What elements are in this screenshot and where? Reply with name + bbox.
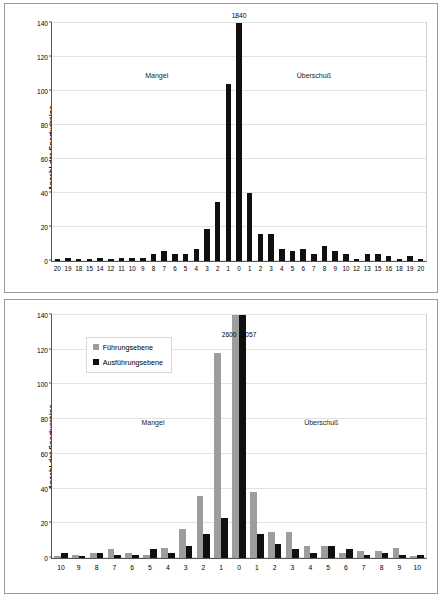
bar[interactable]	[215, 202, 221, 262]
bar[interactable]	[197, 496, 204, 558]
bar[interactable]	[268, 234, 274, 261]
bar[interactable]	[168, 553, 175, 558]
bar[interactable]	[125, 553, 132, 558]
bar-slot[interactable]: 3	[202, 23, 213, 261]
bar-slot[interactable]: 6	[298, 23, 309, 261]
bar-slot[interactable]: 15	[373, 23, 384, 261]
bar[interactable]	[290, 251, 296, 261]
bar-slot[interactable]: 12	[105, 23, 116, 261]
bar[interactable]	[61, 553, 68, 558]
bar[interactable]	[221, 518, 228, 558]
bar[interactable]	[275, 544, 282, 558]
bar-slot[interactable]: 1	[248, 315, 266, 558]
bar[interactable]	[346, 549, 353, 558]
bar[interactable]	[72, 555, 79, 558]
bar[interactable]	[150, 549, 157, 558]
bar-slot[interactable]: 026002057	[230, 315, 248, 558]
bar[interactable]	[375, 551, 382, 558]
bar-slot[interactable]: 7	[309, 23, 320, 261]
bar-slot[interactable]: 01840	[234, 23, 245, 261]
bar[interactable]	[407, 256, 413, 261]
bar[interactable]	[268, 532, 275, 558]
bar[interactable]	[292, 549, 299, 558]
bar[interactable]	[304, 546, 311, 558]
bar[interactable]	[321, 546, 328, 558]
bar[interactable]	[161, 548, 168, 558]
bar[interactable]	[279, 249, 285, 261]
bar[interactable]	[172, 254, 178, 261]
bar[interactable]	[179, 529, 186, 559]
bar-slot[interactable]: 19	[405, 23, 416, 261]
bar-slot[interactable]: 18	[73, 23, 84, 261]
bar-slot[interactable]: 10	[52, 315, 70, 558]
bar[interactable]	[339, 553, 346, 558]
bar-slot[interactable]: 1	[223, 23, 234, 261]
bar[interactable]	[417, 555, 424, 558]
bar[interactable]	[286, 532, 293, 558]
bar-slot[interactable]: 5	[319, 315, 337, 558]
bar[interactable]	[257, 534, 264, 558]
bar[interactable]	[322, 246, 328, 261]
bar-slot[interactable]: 20	[52, 23, 63, 261]
bar[interactable]	[418, 259, 424, 261]
bar[interactable]	[183, 254, 189, 261]
bar[interactable]	[393, 548, 400, 558]
bar[interactable]	[119, 258, 125, 261]
bar-slot[interactable]: 19	[63, 23, 74, 261]
bar[interactable]	[108, 259, 114, 261]
bar[interactable]	[311, 254, 317, 261]
bar[interactable]	[300, 249, 306, 261]
bar[interactable]	[97, 258, 103, 261]
bar[interactable]	[332, 251, 338, 261]
bar[interactable]	[328, 546, 335, 558]
bar[interactable]	[410, 556, 417, 558]
bar-slot[interactable]: 13	[362, 23, 373, 261]
bar-slot[interactable]: 8	[319, 23, 330, 261]
bar[interactable]	[236, 23, 242, 261]
bar[interactable]	[186, 546, 193, 558]
bar[interactable]	[365, 254, 371, 261]
bar-slot[interactable]: 9	[138, 23, 149, 261]
bar[interactable]	[76, 259, 82, 261]
bar-slot[interactable]: 10	[341, 23, 352, 261]
bar-slot[interactable]: 8	[373, 315, 391, 558]
bar[interactable]	[258, 234, 264, 261]
bar[interactable]	[375, 254, 381, 261]
bar-slot[interactable]: 6	[170, 23, 181, 261]
bar[interactable]	[54, 556, 61, 558]
bar-slot[interactable]: 16	[383, 23, 394, 261]
bar[interactable]	[140, 258, 146, 261]
bar-slot[interactable]: 10	[127, 23, 138, 261]
bar-slot[interactable]: 7	[159, 23, 170, 261]
bar[interactable]	[397, 259, 403, 261]
bar[interactable]	[132, 555, 139, 558]
bar-slot[interactable]: 3	[266, 23, 277, 261]
bar[interactable]	[114, 555, 121, 558]
bar[interactable]	[90, 553, 97, 558]
bar[interactable]	[343, 254, 349, 261]
bar[interactable]	[247, 193, 253, 261]
bar-slot[interactable]: 1	[244, 23, 255, 261]
bar-slot[interactable]: 2	[195, 315, 213, 558]
bar[interactable]	[364, 555, 371, 558]
bar-slot[interactable]: 12	[351, 23, 362, 261]
bar[interactable]	[399, 555, 406, 558]
bar-slot[interactable]: 5	[287, 23, 298, 261]
bar-slot[interactable]: 15	[84, 23, 95, 261]
bar[interactable]	[79, 556, 86, 558]
bar[interactable]	[203, 534, 210, 558]
bar-slot[interactable]: 10	[408, 315, 426, 558]
bar[interactable]	[386, 256, 392, 261]
bar-slot[interactable]: 2	[255, 23, 266, 261]
bar[interactable]	[108, 549, 115, 558]
legend-item[interactable]: Führungsebene	[93, 343, 163, 352]
bar-slot[interactable]: 4	[276, 23, 287, 261]
bar-slot[interactable]: 18	[394, 23, 405, 261]
bar-slot[interactable]: 2	[212, 23, 223, 261]
bar-slot[interactable]: 4	[301, 315, 319, 558]
bar[interactable]	[354, 259, 360, 261]
bar-slot[interactable]: 2	[266, 315, 284, 558]
bar[interactable]	[87, 259, 93, 261]
bar-slot[interactable]: 3	[177, 315, 195, 558]
bar-slot[interactable]: 14	[95, 23, 106, 261]
